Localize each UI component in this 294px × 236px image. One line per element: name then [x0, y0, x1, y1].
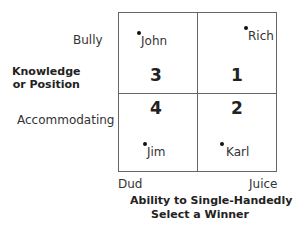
quadrant-number-3: 3: [150, 65, 162, 85]
person-label-jim: Jim: [147, 145, 166, 159]
point-marker-karl: [220, 142, 224, 146]
y-axis-title-line2: or Position: [12, 78, 81, 91]
person-label-rich: Rich: [248, 29, 274, 43]
x-axis-right-label: Juice: [249, 177, 277, 191]
quadrant-number-1: 1: [231, 65, 243, 85]
x-axis-title-line2: Select a Winner: [130, 208, 270, 222]
quadrant-number-4: 4: [150, 98, 162, 118]
x-axis-left-label: Dud: [118, 177, 142, 191]
x-axis-title: Ability to Single-Handedly Select a Winn…: [130, 194, 270, 222]
person-label-karl: Karl: [226, 145, 249, 159]
person-label-john: John: [141, 34, 167, 48]
y-axis-bottom-label: Accommodating: [17, 113, 115, 127]
vertical-divider: [197, 12, 198, 172]
horizontal-divider: [118, 93, 277, 94]
y-axis-title-line1: Knowledge: [12, 65, 81, 78]
y-axis-top-label: Bully: [73, 33, 103, 47]
x-axis-title-line1: Ability to Single-Handedly: [130, 194, 270, 208]
quadrant-number-2: 2: [231, 98, 243, 118]
y-axis-title: Knowledge or Position: [12, 65, 81, 91]
